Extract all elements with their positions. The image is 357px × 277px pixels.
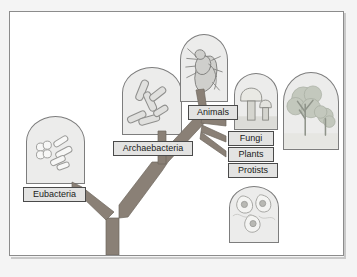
label-eubacteria[interactable]: Eubacteria	[23, 187, 86, 202]
label-fungi[interactable]: Fungi	[228, 131, 274, 146]
diagram-frame: Eubacteria Archaebacteria	[9, 11, 344, 256]
frame-shadow-bottom	[11, 257, 346, 259]
label-archaebacteria[interactable]: Archaebacteria	[113, 141, 193, 156]
frame-shadow-right	[344, 13, 346, 258]
label-protists[interactable]: Protists	[228, 163, 278, 178]
phylogenetic-tree-trunk	[10, 12, 344, 255]
figure-container: Eubacteria Archaebacteria	[0, 0, 357, 277]
label-animals[interactable]: Animals	[188, 105, 238, 120]
label-plants[interactable]: Plants	[228, 147, 274, 162]
